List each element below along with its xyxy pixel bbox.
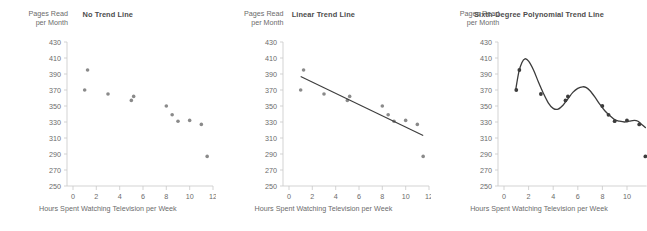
x-axis: 0 2 4 6 8 10 12 (67, 186, 216, 201)
chart-panel-linear-trend-line: Linear Trend Line Pages Read per Month (216, 0, 432, 231)
y-tick-label: 390 (49, 70, 61, 79)
y-tick-label: 410 (480, 54, 492, 63)
data-point (347, 95, 351, 99)
y-tick-label: 330 (480, 118, 492, 127)
data-point (132, 95, 136, 99)
y-tick-label: 310 (265, 134, 277, 143)
chart-panel-no-trend-line: No Trend Line Pages Read per Month (0, 0, 216, 231)
plot-area: 430 410 390 370 350 330 310 290 270 250 (431, 0, 647, 231)
data-point (205, 155, 209, 159)
data-point (515, 88, 519, 92)
y-tick-labels: 430 410 390 370 350 330 310 290 270 250 (49, 38, 61, 191)
linear-trend-path (300, 76, 423, 135)
y-tick-label: 330 (265, 118, 277, 127)
y-tick-label: 350 (49, 102, 61, 111)
x-tick-marks (504, 186, 627, 190)
y-tick-labels: 430 410 390 370 350 330 310 290 270 250 (480, 38, 492, 191)
y-tick-label: 270 (480, 166, 492, 175)
x-axis: 0 2 4 6 8 10 12 (283, 186, 432, 201)
x-tick-marks (73, 186, 213, 190)
y-tick-label: 330 (49, 118, 61, 127)
y-tick-label: 410 (265, 54, 277, 63)
data-point (644, 155, 647, 159)
y-tick-label: 250 (480, 182, 492, 191)
x-tick-label: 6 (141, 192, 145, 201)
x-tick-label: 4 (551, 192, 555, 201)
data-point (165, 104, 169, 108)
data-point (601, 104, 605, 108)
y-tick-label: 250 (49, 182, 61, 191)
trend-line-comparison-figure: No Trend Line Pages Read per Month (0, 0, 647, 231)
trend-line (300, 76, 423, 135)
x-tick-label: 4 (118, 192, 122, 201)
x-tick-label: 12 (209, 192, 216, 201)
data-point (170, 113, 174, 117)
x-tick-label: 0 (502, 192, 506, 201)
data-point (415, 123, 419, 127)
trend-line (516, 59, 646, 128)
data-point (625, 119, 629, 123)
x-tick-label: 6 (357, 192, 361, 201)
x-tick-label: 0 (71, 192, 75, 201)
y-tick-label: 370 (480, 86, 492, 95)
x-axis-label: Hours Spent Watching Television per Week (216, 204, 432, 213)
data-point (322, 92, 326, 96)
y-tick-marks (280, 42, 283, 186)
x-tick-label: 10 (623, 192, 631, 201)
data-point (421, 155, 425, 159)
y-tick-label: 430 (49, 38, 61, 47)
x-axis-label: Hours Spent Watching Television per Week (0, 204, 216, 213)
x-tick-label: 2 (94, 192, 98, 201)
data-point (613, 119, 617, 123)
data-point (380, 104, 384, 108)
x-tick-label: 2 (527, 192, 531, 201)
y-tick-labels: 430 410 390 370 350 330 310 290 270 250 (265, 38, 277, 191)
x-tick-label: 10 (186, 192, 194, 201)
data-point (386, 113, 390, 117)
x-tick-labels: 0 2 4 6 8 10 12 (287, 192, 432, 201)
y-axis: 430 410 390 370 350 330 310 290 270 250 (480, 38, 498, 191)
polynomial-trend-path (516, 59, 646, 128)
x-tick-label: 8 (164, 192, 168, 201)
data-point (564, 99, 568, 103)
data-point-series (298, 68, 424, 158)
y-axis: 430 410 390 370 350 330 310 290 270 250 (265, 38, 283, 191)
x-tick-label: 10 (401, 192, 409, 201)
y-axis: 430 410 390 370 350 330 310 290 270 250 (49, 38, 67, 191)
y-tick-label: 370 (265, 86, 277, 95)
y-tick-label: 350 (480, 102, 492, 111)
data-point (403, 119, 407, 123)
y-tick-label: 430 (480, 38, 492, 47)
y-tick-label: 430 (265, 38, 277, 47)
y-tick-label: 370 (49, 86, 61, 95)
y-tick-label: 310 (49, 134, 61, 143)
x-tick-labels: 0 2 4 6 8 10 12 (71, 192, 216, 201)
data-point (200, 123, 204, 127)
data-point (539, 92, 543, 96)
data-point-series (83, 68, 209, 158)
data-point (518, 68, 522, 72)
data-point (106, 92, 110, 96)
data-point (638, 123, 642, 127)
plot-area: 430 410 390 370 350 330 310 290 270 250 (216, 0, 432, 231)
chart-panel-sixth-degree-polynomial-trend-line: Sixth-Degree Polynomial Trend Line Pages… (431, 0, 647, 231)
data-point (176, 119, 180, 123)
data-point (566, 95, 570, 99)
x-tick-label: 8 (380, 192, 384, 201)
y-tick-label: 390 (265, 70, 277, 79)
y-tick-label: 410 (49, 54, 61, 63)
data-point (86, 68, 90, 72)
y-tick-label: 270 (49, 166, 61, 175)
data-point (83, 88, 87, 92)
y-tick-marks (64, 42, 67, 186)
plot-area: 430 410 390 370 350 330 310 290 270 250 (0, 0, 216, 231)
y-tick-label: 290 (265, 150, 277, 159)
data-point (130, 99, 134, 103)
x-tick-labels: 0 2 4 6 8 10 (502, 192, 631, 201)
y-tick-label: 250 (265, 182, 277, 191)
data-point-series (515, 68, 647, 158)
data-point (298, 88, 302, 92)
x-tick-label: 0 (287, 192, 291, 201)
x-tick-marks (289, 186, 429, 190)
data-point (188, 119, 192, 123)
